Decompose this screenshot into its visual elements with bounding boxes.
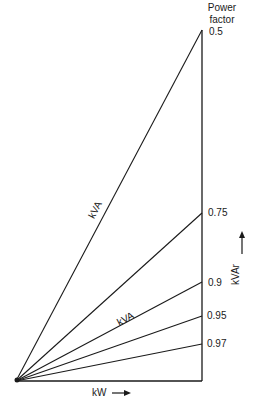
pf-label-0.97: 0.97 bbox=[207, 338, 226, 349]
pf-label-0.5: 0.5 bbox=[209, 26, 223, 37]
kva-line-pf-0.95 bbox=[16, 316, 202, 381]
origin-dot bbox=[15, 378, 20, 383]
title-line1: Power bbox=[199, 2, 245, 14]
pf-label-0.75: 0.75 bbox=[208, 207, 227, 218]
kva-line-pf-0.5 bbox=[16, 30, 202, 381]
kva-line-pf-0.97 bbox=[16, 344, 202, 381]
kvar-axis-label: kVAr bbox=[230, 264, 241, 285]
kvar-arrow-head bbox=[239, 231, 245, 238]
pf-label-0.95: 0.95 bbox=[207, 310, 226, 321]
title-line2: factor bbox=[199, 14, 245, 26]
kw-axis-label: kW bbox=[92, 387, 106, 398]
power-factor-title: Power factor bbox=[199, 2, 245, 26]
pf-label-0.9: 0.9 bbox=[208, 277, 222, 288]
kw-arrow-head bbox=[124, 390, 131, 396]
